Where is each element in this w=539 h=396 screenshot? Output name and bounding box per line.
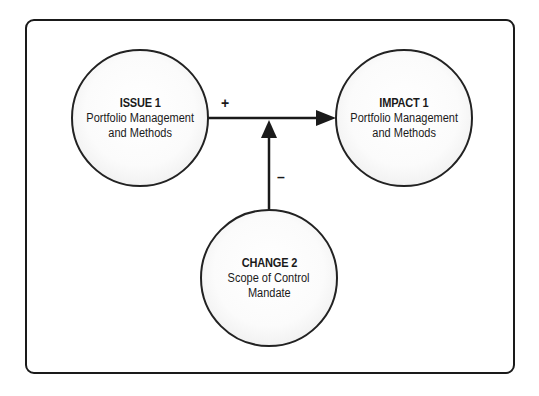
node-label-line1: Scope of Control [228,271,310,286]
node-label-line2: and Methods [372,126,436,141]
negative-sign: – [277,170,285,184]
edge-issue-to-impact [208,110,336,126]
node-label-line2: Mandate [248,286,291,301]
node-label-line1: Portfolio Management [86,111,194,126]
node-label-line1: Portfolio Management [350,111,458,126]
node-label-line2: and Methods [108,126,172,141]
positive-sign: + [221,96,229,110]
arrowhead-icon [261,120,277,138]
arrowhead-icon [316,110,336,126]
node-title: CHANGE 2 [241,256,296,271]
node-change-2: CHANGE 2 Scope of Control Mandate [200,209,338,347]
node-title: ISSUE 1 [120,96,161,111]
node-title: IMPACT 1 [379,96,428,111]
edge-change-to-link [261,120,277,209]
node-issue-1: ISSUE 1 Portfolio Management and Methods [71,49,209,187]
node-impact-1: IMPACT 1 Portfolio Management and Method… [335,49,473,187]
